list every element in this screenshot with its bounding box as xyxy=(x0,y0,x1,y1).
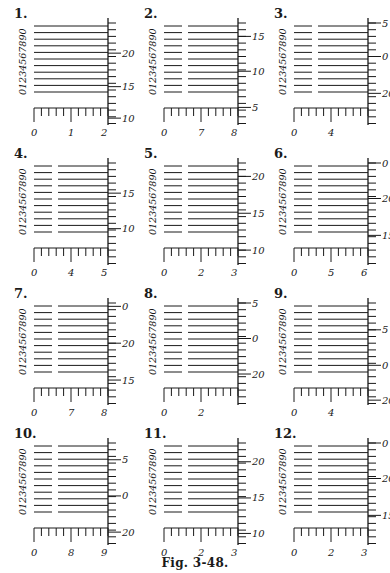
bottom-scale-label: 0 xyxy=(291,127,298,138)
bottom-scale-label: 0 xyxy=(31,267,38,278)
bottom-scale-label: 1 xyxy=(68,127,74,138)
right-scale-label: 20 xyxy=(381,88,390,99)
bottom-scale-label: 4 xyxy=(327,407,334,418)
vernier-panel-9: 9.01234567890502004 xyxy=(260,284,390,422)
right-scale-label: 15 xyxy=(382,510,390,521)
digit-column-label: 01234567890 xyxy=(17,309,28,376)
vernier-panel-1: 1.01234567890201510012 xyxy=(0,4,130,142)
digit-column-label: 01234567890 xyxy=(277,169,288,236)
vernier-panel-12: 12.0123456789002015023 xyxy=(260,424,390,562)
vernier-panel-10: 10.012345678905020089 xyxy=(0,424,130,562)
right-scale-label: 5 xyxy=(122,454,128,465)
right-scale-label: 0 xyxy=(122,490,129,501)
bottom-scale-label: 7 xyxy=(68,407,75,418)
bottom-scale-label: 0 xyxy=(161,407,168,418)
digit-column-label: 01234567890 xyxy=(147,169,158,236)
vernier-diagram: 0123456789002015078 xyxy=(0,284,130,422)
right-scale-label: 20 xyxy=(381,193,390,204)
right-scale-label: 0 xyxy=(382,360,389,371)
right-scale-label: 0 xyxy=(252,333,259,344)
vernier-diagram: 01234567890201510012 xyxy=(0,4,130,142)
digit-column-label: 01234567890 xyxy=(147,309,158,376)
bottom-scale-label: 8 xyxy=(101,407,107,418)
bottom-scale-label: 5 xyxy=(101,267,107,278)
vernier-diagram: 01234567890502004 xyxy=(260,4,390,142)
vernier-panel-5: 5.01234567890201510023 xyxy=(130,144,260,282)
vernier-panel-11: 11.01234567890201510023 xyxy=(130,424,260,562)
right-scale-label: 5 xyxy=(252,102,258,113)
bottom-scale-label: 0 xyxy=(31,407,38,418)
digit-column-label: 01234567890 xyxy=(147,449,158,516)
figure-3-48: 1.012345678902015100122.0123456789015105… xyxy=(0,0,390,573)
vernier-diagram: 012345678901510045 xyxy=(0,144,130,282)
vernier-panel-2: 2.0123456789015105078 xyxy=(130,4,260,142)
vernier-diagram: 0123456789002015056 xyxy=(260,144,390,282)
vernier-diagram: 01234567890201510023 xyxy=(130,424,260,562)
bottom-scale-label: 2 xyxy=(197,267,204,278)
bottom-scale-label: 4 xyxy=(327,127,334,138)
bottom-scale-label: 0 xyxy=(291,267,298,278)
bottom-scale-label: 0 xyxy=(161,267,168,278)
right-scale-label: 0 xyxy=(122,301,129,312)
right-scale-label: 5 xyxy=(252,298,258,309)
bottom-scale-label: 0 xyxy=(291,407,298,418)
right-scale-label: 15 xyxy=(382,230,390,241)
digit-column-label: 01234567890 xyxy=(147,29,158,96)
right-scale-label: 0 xyxy=(382,51,389,62)
bottom-scale-label: 0 xyxy=(161,127,168,138)
bottom-scale-label: 0 xyxy=(31,127,38,138)
figure-caption: Fig. 3-48. xyxy=(0,556,390,570)
right-scale-label: 20 xyxy=(381,473,390,484)
bottom-scale-label: 6 xyxy=(361,267,368,278)
bottom-scale-label: 3 xyxy=(231,267,237,278)
vernier-panel-6: 6.0123456789002015056 xyxy=(260,144,390,282)
vernier-panel-8: 8.01234567890502002 xyxy=(130,284,260,422)
vernier-diagram: 0123456789002015023 xyxy=(260,424,390,562)
digit-column-label: 01234567890 xyxy=(17,29,28,96)
vernier-diagram: 01234567890502002 xyxy=(130,284,260,422)
bottom-scale-label: 8 xyxy=(231,127,237,138)
digit-column-label: 01234567890 xyxy=(277,29,288,96)
right-scale-label: 5 xyxy=(382,324,388,335)
bottom-scale-label: 4 xyxy=(67,267,74,278)
bottom-scale-label: 2 xyxy=(100,127,107,138)
right-scale-label: 0 xyxy=(382,438,389,449)
bottom-scale-label: 5 xyxy=(328,267,334,278)
digit-column-label: 01234567890 xyxy=(17,449,28,516)
right-scale-label: 0 xyxy=(382,158,389,169)
vernier-panel-7: 7.0123456789002015078 xyxy=(0,284,130,422)
right-scale-label: 20 xyxy=(381,395,390,406)
vernier-panel-4: 4.012345678901510045 xyxy=(0,144,130,282)
digit-column-label: 01234567890 xyxy=(277,309,288,376)
right-scale-label: 5 xyxy=(382,18,388,29)
digit-column-label: 01234567890 xyxy=(277,449,288,516)
bottom-scale-label: 2 xyxy=(197,407,204,418)
vernier-panel-3: 3.01234567890502004 xyxy=(260,4,390,142)
vernier-diagram: 01234567890502004 xyxy=(260,284,390,422)
digit-column-label: 01234567890 xyxy=(17,169,28,236)
bottom-scale-label: 7 xyxy=(198,127,205,138)
vernier-diagram: 01234567890201510023 xyxy=(130,144,260,282)
vernier-diagram: 012345678905020089 xyxy=(0,424,130,562)
vernier-diagram: 0123456789015105078 xyxy=(130,4,260,142)
